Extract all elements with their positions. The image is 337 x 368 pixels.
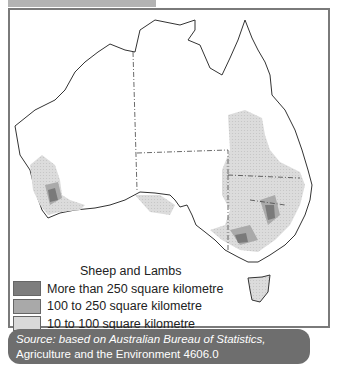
legend-title: Sheep and Lambs	[80, 264, 181, 278]
sheep-region-south	[135, 195, 175, 215]
legend-swatch	[13, 299, 41, 314]
legend-swatch	[13, 281, 41, 296]
source-title: Agriculture and the Environment 4606.0	[16, 348, 219, 360]
legend-label: 100 to 250 square kilometre	[47, 299, 202, 313]
legend-item: More than 250 square kilometre	[13, 280, 223, 298]
legend-label: More than 250 square kilometre	[47, 282, 223, 296]
source-prefix: Source: based on Australian Bureau of St…	[16, 333, 266, 345]
tasmania	[248, 275, 270, 302]
legend-item: 100 to 250 square kilometre	[13, 298, 223, 316]
source-caption: Source: based on Australian Bureau of St…	[8, 329, 310, 364]
